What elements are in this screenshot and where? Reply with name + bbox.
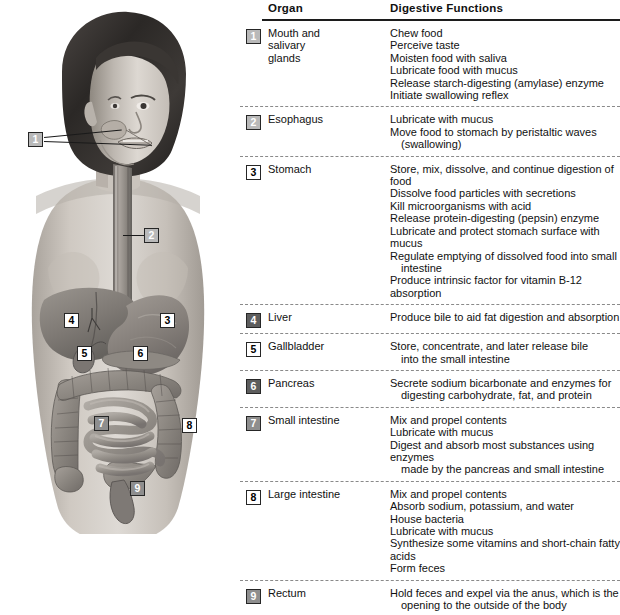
function-line: Mix and propel contents [390,414,620,426]
function-line: Lubricate food with mucus [390,64,620,76]
illustration-marker-mouth-and-salivary-glands: 1 [28,132,43,147]
table-row: 9RectumHold feces and expel via the anus… [240,580,620,615]
function-line: Move food to stomach by peristaltic wave… [390,126,620,138]
function-line: Lubricate and protect stomach surface wi… [390,225,620,250]
function-line: Produce bile to aid fat digestion and ab… [390,311,620,323]
function-line: intestine [390,262,620,274]
row-number-cell: 1 [240,26,268,101]
row-badge-2: 2 [246,115,261,130]
anatomy-drawing [0,0,236,566]
function-line: Release protein-digesting (pepsin) enzym… [390,212,620,224]
column-header-digestive-functions: Digestive Functions [390,2,503,14]
row-badge-5: 5 [246,342,261,357]
function-line: Regulate emptying of dissolved food into… [390,250,620,262]
organ-name-cell: Liver [268,310,390,328]
function-line: Secrete sodium bicarbonate and enzymes f… [390,377,620,389]
row-number-cell: 2 [240,112,268,150]
function-line: Dissolve food particles with secretions [390,187,620,199]
row-badge-4: 4 [246,313,261,328]
function-line: Hold feces and expel via the anus, which… [390,587,620,599]
digestive-functions-cell: Chew foodPerceive tasteMoisten food with… [390,26,620,101]
function-line: Lubricate with mucus [390,525,620,537]
illustration-marker-esophagus: 2 [144,228,159,243]
leader-line-esophagus [123,235,144,236]
table-row: 6PancreasSecrete sodium bicarbonate and … [240,370,620,407]
function-line: opening to the outside of the body [390,599,620,611]
digestive-system-illustration: 123456789 [0,0,236,566]
digestive-functions-cell: Store, concentrate, and later release bi… [390,339,620,365]
digestive-functions-cell: Lubricate with mucusMove food to stomach… [390,112,620,150]
illustration-marker-small-intestine: 7 [94,416,109,431]
illustration-marker-stomach: 3 [160,313,175,328]
organ-name-cell: Rectum [268,586,390,612]
illustration-marker-large-intestine: 8 [182,418,197,433]
function-line: Mix and propel contents [390,488,620,500]
function-line: Produce intrinsic factor for vitamin B-1… [390,274,620,299]
function-line: Digest and absorb most substances using … [390,439,620,464]
organ-name-cell: Mouth and salivary glands [268,26,390,101]
organ-name-cell: Esophagus [268,112,390,150]
function-line: Chew food [390,27,620,39]
illustration-marker-gallbladder: 5 [77,346,92,361]
table-row: 2EsophagusLubricate with mucusMove food … [240,106,620,155]
row-number-cell: 6 [240,376,268,402]
function-line: Synthesize some vitamins and short-chain… [390,537,620,562]
table-row: 8Large intestineMix and propel contentsA… [240,481,620,580]
table-row: 1Mouth and salivary glandsChew foodPerce… [240,21,620,106]
row-number-cell: 8 [240,487,268,575]
organ-name-cell: Stomach [268,162,390,299]
illustration-marker-pancreas: 6 [133,346,148,361]
table-row: 7Small intestineMix and propel contentsL… [240,407,620,481]
function-line: Absorb sodium, potassium, and water [390,500,620,512]
function-line: (swallowing) [390,138,620,150]
function-line: Lubricate with mucus [390,113,620,125]
function-line: Release starch-digesting (amylase) enzym… [390,77,620,89]
function-line: Perceive taste [390,39,620,51]
table-header: Organ Digestive Functions [240,0,620,20]
table-row: 4LiverProduce bile to aid fat digestion … [240,304,620,333]
function-line: Moisten food with saliva [390,52,620,64]
organ-name-cell: Small intestine [268,413,390,476]
head-group [62,12,186,176]
function-line: made by the pancreas and small intestine [390,463,620,475]
table-body: 1Mouth and salivary glandsChew foodPerce… [240,21,620,615]
digestive-functions-cell: Hold feces and expel via the anus, which… [390,586,620,612]
organ-name-cell: Large intestine [268,487,390,575]
row-number-cell: 9 [240,586,268,612]
function-line: Lubricate with mucus [390,426,620,438]
digestive-functions-cell: Mix and propel contentsAbsorb sodium, po… [390,487,620,575]
digestive-functions-cell: Store, mix, dissolve, and continue diges… [390,162,620,299]
function-line: Store, mix, dissolve, and continue diges… [390,163,620,188]
function-line: House bacteria [390,513,620,525]
function-line: into the small intestine [390,353,620,365]
digestive-functions-table: Organ Digestive Functions 1Mouth and sal… [240,0,620,566]
row-badge-8: 8 [246,490,261,505]
column-header-organ: Organ [268,2,303,14]
function-line: Store, concentrate, and later release bi… [390,340,620,352]
table-row: 3StomachStore, mix, dissolve, and contin… [240,156,620,304]
row-badge-6: 6 [246,379,261,394]
illustration-marker-rectum: 9 [130,481,145,496]
organ-name-cell: Gallbladder [268,339,390,365]
function-line: digesting carbohydrate, fat, and protein [390,389,620,401]
row-number-cell: 3 [240,162,268,299]
digestive-functions-cell: Mix and propel contentsLubricate with mu… [390,413,620,476]
row-number-cell: 5 [240,339,268,365]
function-line: Kill microorganisms with acid [390,200,620,212]
digestive-functions-cell: Produce bile to aid fat digestion and ab… [390,310,620,328]
row-number-cell: 4 [240,310,268,328]
row-badge-7: 7 [246,416,261,431]
digestive-functions-cell: Secrete sodium bicarbonate and enzymes f… [390,376,620,402]
row-badge-9: 9 [246,589,261,604]
row-badge-1: 1 [246,29,261,44]
esophagus-shape [113,164,132,312]
row-badge-3: 3 [246,165,261,180]
function-line: Initiate swallowing reflex [390,89,620,101]
function-line: Form feces [390,562,620,574]
table-row: 5GallbladderStore, concentrate, and late… [240,333,620,370]
organ-name-cell: Pancreas [268,376,390,402]
illustration-marker-liver: 4 [64,313,79,328]
row-number-cell: 7 [240,413,268,476]
